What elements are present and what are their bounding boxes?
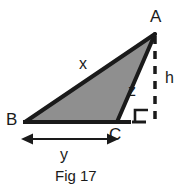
vertex-label-b: B	[6, 111, 17, 128]
side-label-z: z	[128, 83, 136, 99]
vertex-label-c: C	[109, 126, 121, 143]
side-label-y: y	[60, 147, 68, 163]
right-angle-marker	[135, 110, 148, 122]
side-label-h: h	[165, 70, 174, 86]
figure-container: A B C x z h y Fig 17	[0, 0, 183, 186]
figure-caption: Fig 17	[55, 168, 97, 183]
vertex-label-a: A	[150, 8, 161, 25]
side-label-x: x	[79, 56, 87, 72]
base-dimension-arrowhead-left	[21, 134, 33, 145]
geometry-diagram-svg	[0, 0, 183, 186]
